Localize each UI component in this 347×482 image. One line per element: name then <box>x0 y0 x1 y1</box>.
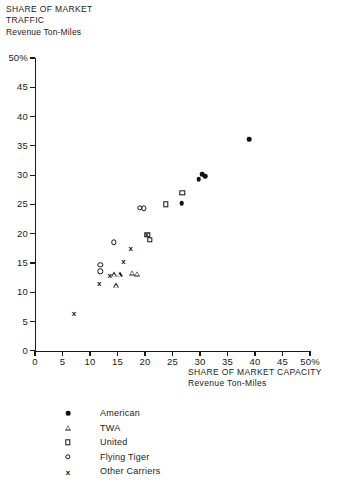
data-point-american <box>180 201 185 206</box>
scatter-chart-page: { "title": { "line1": "SHARE OF MARKET",… <box>0 0 347 482</box>
y-tick-mark <box>30 145 35 146</box>
x-axis-caption: SHARE OF MARKET CAPACITY Revenue Ton-Mil… <box>188 367 322 390</box>
x-tick-label: 45 <box>277 357 288 367</box>
legend-marker-american <box>66 411 71 416</box>
x-tick-label: 30 <box>195 357 206 367</box>
y-tick-label: 30 <box>17 170 28 180</box>
data-point-twa <box>134 271 140 276</box>
y-tick-label: 40 <box>17 112 28 122</box>
y-tick-label: 35 <box>17 141 28 151</box>
legend-label-flyingtiger: Flying Tiger <box>100 450 150 465</box>
y-tick-mark <box>30 292 35 293</box>
data-point-flying-tiger <box>141 206 146 211</box>
title-line-3: Revenue Ton-Miles <box>6 27 92 38</box>
x-tick-label: 15 <box>112 357 123 367</box>
plot-area: 05101520253035404550% 051015202530354045… <box>35 58 310 352</box>
x-caption-line-1: SHARE OF MARKET CAPACITY <box>188 367 322 378</box>
data-point-other-carriers: x <box>71 309 78 316</box>
legend-label-other: Other Carriers <box>100 464 161 479</box>
y-tick-label: 25 <box>17 200 28 210</box>
y-axis-line <box>35 58 36 352</box>
legend-label-american: American <box>100 406 140 421</box>
legend-label-united: United <box>100 435 128 450</box>
y-tick-label: 50% <box>8 53 28 63</box>
data-point-american <box>197 177 202 182</box>
legend-marker-other: x <box>65 468 72 475</box>
y-tick-mark <box>30 262 35 263</box>
data-point-flying-tiger <box>98 262 103 267</box>
data-point-american <box>247 137 252 142</box>
x-tick-label: 40 <box>250 357 261 367</box>
y-tick-label: 20 <box>17 229 28 239</box>
data-point-united <box>180 190 185 195</box>
data-point-other-carriers: x <box>120 258 127 265</box>
y-tick-mark <box>30 116 35 117</box>
chart-title-block: SHARE OF MARKET TRAFFIC Revenue Ton-Mile… <box>6 4 92 38</box>
y-tick-label: 45 <box>17 83 28 93</box>
legend-marker-flyingtiger <box>65 454 70 459</box>
y-tick-mark <box>30 87 35 88</box>
x-tick-label: 50% <box>300 357 320 367</box>
data-point-other-carriers: x <box>106 272 113 279</box>
y-tick-label: 5 <box>23 317 28 327</box>
data-point-united <box>163 202 168 207</box>
y-tick-mark <box>30 233 35 234</box>
legend-marker-united <box>65 440 70 445</box>
y-tick-mark <box>30 175 35 176</box>
data-point-american <box>203 174 208 179</box>
y-tick-label: 15 <box>17 258 28 268</box>
x-tick-label: 20 <box>140 357 151 367</box>
title-line-1: SHARE OF MARKET <box>6 4 92 15</box>
y-tick-mark <box>30 204 35 205</box>
x-tick-label: 10 <box>85 357 96 367</box>
legend-marker-twa <box>65 425 71 430</box>
x-caption-line-2: Revenue Ton-Miles <box>188 378 322 389</box>
title-line-2: TRAFFIC <box>6 15 92 26</box>
x-tick-label: 0 <box>32 357 37 367</box>
x-tick-label: 25 <box>167 357 178 367</box>
data-point-flying-tiger <box>111 240 116 245</box>
legend-label-twa: TWA <box>100 421 120 436</box>
data-point-other-carriers: x <box>143 230 150 237</box>
y-tick-mark <box>30 57 35 58</box>
data-point-other-carriers: x <box>96 280 103 287</box>
x-tick-label: 5 <box>60 357 65 367</box>
data-point-other-carriers: x <box>127 245 134 252</box>
data-point-flying-tiger <box>98 268 103 273</box>
y-tick-label: 10 <box>17 287 28 297</box>
y-tick-label: 0 <box>23 346 28 356</box>
x-tick-label: 35 <box>222 357 233 367</box>
data-point-twa <box>113 283 119 288</box>
data-point-twa <box>117 272 123 277</box>
y-tick-mark <box>30 321 35 322</box>
